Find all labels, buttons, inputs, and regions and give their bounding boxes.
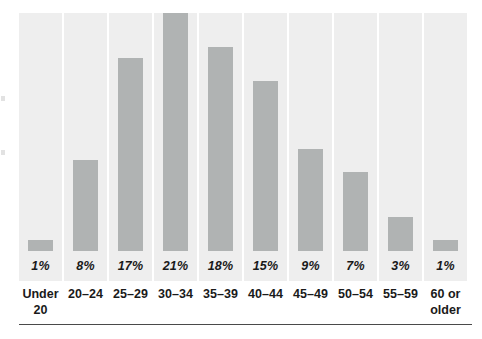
value-label-slot: 9% — [289, 251, 332, 281]
value-label-slot: 15% — [244, 251, 287, 281]
bar[interactable] — [343, 172, 369, 251]
value-label-slot: 8% — [64, 251, 107, 281]
column-band: 18% — [199, 13, 242, 281]
bar-value-label: 8% — [76, 259, 94, 273]
category-label-slot: 30–34 — [154, 281, 197, 320]
value-label-slot: 7% — [334, 251, 377, 281]
x-axis-category-label: 40–44 — [248, 286, 283, 302]
bar-slot — [64, 13, 107, 251]
column-band: 21% — [154, 13, 197, 281]
column-band: 9% — [289, 13, 332, 281]
bar-value-label: 1% — [436, 259, 454, 273]
chart-column: 1%60 or older — [424, 13, 467, 320]
bar-slot — [199, 13, 242, 251]
category-label-slot: 60 or older — [424, 281, 467, 320]
column-band: 7% — [334, 13, 377, 281]
bar[interactable] — [118, 58, 144, 251]
column-band: 1% — [19, 13, 62, 281]
bar-value-label: 9% — [301, 259, 319, 273]
x-axis-category-label: 45–49 — [293, 286, 328, 302]
chart-plot-area: 1%Under 208%20–2417%25–2921%30–3418%35–3… — [19, 13, 467, 320]
chart-column: 17%25–29 — [109, 13, 152, 320]
bar-slot — [379, 13, 422, 251]
bar[interactable] — [73, 160, 99, 251]
bar-slot — [154, 13, 197, 251]
bar[interactable] — [208, 47, 234, 251]
column-band: 3% — [379, 13, 422, 281]
chart-column: 21%30–34 — [154, 13, 197, 320]
chart-column: 15%40–44 — [244, 13, 287, 320]
x-axis-category-label: 50–54 — [338, 286, 373, 302]
bar-value-label: 15% — [253, 259, 279, 273]
chart-column: 7%50–54 — [334, 13, 377, 320]
value-label-slot: 21% — [154, 251, 197, 281]
page-margin-mark — [1, 150, 5, 155]
category-label-slot: 50–54 — [334, 281, 377, 320]
bar-value-label: 17% — [118, 259, 144, 273]
category-label-slot: 45–49 — [289, 281, 332, 320]
value-label-slot: 1% — [19, 251, 62, 281]
chart-column: 9%45–49 — [289, 13, 332, 320]
bar-value-label: 21% — [163, 259, 189, 273]
page-margin-mark — [1, 96, 5, 101]
column-band: 15% — [244, 13, 287, 281]
bar-slot — [424, 13, 467, 251]
value-label-slot: 18% — [199, 251, 242, 281]
category-label-slot: 40–44 — [244, 281, 287, 320]
chart-columns: 1%Under 208%20–2417%25–2921%30–3418%35–3… — [19, 13, 467, 320]
column-band: 8% — [64, 13, 107, 281]
bar[interactable] — [388, 217, 414, 251]
bar-slot — [289, 13, 332, 251]
bar-slot — [244, 13, 287, 251]
bar-chart-figure: 1%Under 208%20–2417%25–2921%30–3418%35–3… — [0, 0, 482, 339]
bar-slot — [19, 13, 62, 251]
chart-column: 18%35–39 — [199, 13, 242, 320]
x-axis-category-label: 25–29 — [113, 286, 148, 302]
bar-value-label: 18% — [208, 259, 234, 273]
x-axis-category-label: 20–24 — [68, 286, 103, 302]
x-axis-category-label: 30–34 — [158, 286, 193, 302]
bar-value-label: 1% — [31, 259, 49, 273]
bar[interactable] — [433, 240, 459, 251]
category-label-slot: 35–39 — [199, 281, 242, 320]
column-band: 17% — [109, 13, 152, 281]
chart-column: 1%Under 20 — [19, 13, 62, 320]
bar[interactable] — [163, 13, 189, 251]
bar-slot — [109, 13, 152, 251]
x-axis-category-label: 60 or older — [430, 286, 461, 318]
value-label-slot: 3% — [379, 251, 422, 281]
category-label-slot: 25–29 — [109, 281, 152, 320]
footer-rule — [19, 324, 472, 325]
category-label-slot: 20–24 — [64, 281, 107, 320]
value-label-slot: 17% — [109, 251, 152, 281]
x-axis-category-label: Under 20 — [22, 286, 58, 318]
bar[interactable] — [28, 240, 54, 251]
bar-value-label: 3% — [391, 259, 409, 273]
bar[interactable] — [298, 149, 324, 251]
x-axis-category-label: 35–39 — [203, 286, 238, 302]
bar-slot — [334, 13, 377, 251]
chart-column: 8%20–24 — [64, 13, 107, 320]
column-band: 1% — [424, 13, 467, 281]
bar[interactable] — [253, 81, 279, 251]
bar-value-label: 7% — [346, 259, 364, 273]
category-label-slot: Under 20 — [19, 281, 62, 320]
x-axis-category-label: 55–59 — [383, 286, 418, 302]
chart-column: 3%55–59 — [379, 13, 422, 320]
value-label-slot: 1% — [424, 251, 467, 281]
category-label-slot: 55–59 — [379, 281, 422, 320]
